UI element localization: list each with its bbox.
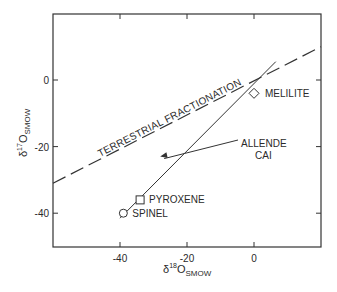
arrowhead-icon [160,152,167,158]
x-tick-label: -40 [113,253,128,264]
allende-label: ALLENDE [241,138,287,149]
cai-label: CAI [255,150,272,161]
terrestrial-fractionation-line [53,47,321,184]
y-tick-label: 0 [43,75,49,86]
y-axis-label: δ17OSMOW [16,108,32,157]
plot-frame [53,14,321,247]
arrow-icon [164,140,238,159]
point-label-pyroxene: PYROXENE [149,194,205,205]
x-axis-label: δ18OSMOW [163,262,212,278]
axis-tick-labels: -40-2000-20-40 [35,75,258,264]
point-labels: SPINELPYROXENEMELILITE [132,88,309,219]
axis-ticks [53,14,321,247]
point-label-melilite: MELILITE [265,88,310,99]
circle-marker-icon [119,209,127,217]
oxygen-isotope-chart: -40-2000-20-40 SPINELPYROXENEMELILITE TE… [0,0,337,292]
diamond-marker-icon [249,88,259,98]
allende-cai-annotation: ALLENDE CAI [160,138,287,161]
x-tick-label: 0 [251,253,257,264]
y-tick-label: -40 [35,208,50,219]
point-label-spinel: SPINEL [132,208,168,219]
data-lines [53,47,321,218]
y-tick-label: -20 [35,142,50,153]
terrestrial-fractionation-label: TERRESTRIAL FRACTIONATION [96,76,243,158]
square-marker-icon [136,196,144,204]
